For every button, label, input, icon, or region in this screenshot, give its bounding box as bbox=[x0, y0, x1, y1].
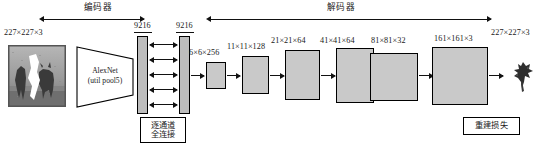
flow-arrow-1 bbox=[227, 75, 240, 76]
flow-arrow-3 bbox=[321, 75, 335, 76]
decoder-section-label: 解码器 bbox=[327, 3, 355, 12]
channelwise-fc-label-line2: 全连接 bbox=[151, 130, 176, 140]
flow-arrow-5 bbox=[419, 75, 433, 76]
fc-bar-right-label: 9216 bbox=[176, 22, 193, 30]
fc-connection-arrow-3 bbox=[150, 74, 177, 75]
figure-canvas: 编码器 解码器 227×227×3 bbox=[0, 0, 556, 151]
flow-arrow-2 bbox=[270, 75, 284, 76]
decoder-block-4-label: 81×81×32 bbox=[371, 37, 406, 45]
masked-grayscale-photo-icon bbox=[9, 46, 65, 106]
decoder-block-0-label: 6×6×256 bbox=[189, 49, 219, 57]
fc-bar-right-label-underline bbox=[176, 32, 194, 33]
fc-bar-left-label-underline bbox=[134, 32, 152, 33]
fc-connection-arrow-4 bbox=[150, 89, 177, 90]
input-image bbox=[8, 45, 66, 107]
decoder-block-3 bbox=[336, 48, 374, 103]
decoder-block-2 bbox=[285, 50, 320, 100]
decoder-block-3-label: 41×41×64 bbox=[320, 37, 355, 45]
reconstruction-loss-box: 重建损失 bbox=[463, 117, 520, 135]
fc-connection-arrow-1 bbox=[150, 44, 177, 45]
alexnet-label-line2: (util pool5) bbox=[73, 76, 137, 85]
decoder-span-line bbox=[211, 19, 491, 20]
reconstructed-patch-thumbnail-icon bbox=[506, 58, 540, 96]
decoder-block-0 bbox=[206, 62, 226, 89]
decoder-span-arrowhead-right bbox=[487, 16, 492, 22]
decoder-block-5 bbox=[432, 47, 488, 105]
encoder-span-arrowhead-left bbox=[39, 16, 44, 22]
fc-connection-arrow-5 bbox=[150, 104, 177, 105]
alexnet-label-line1: AlexNet bbox=[73, 66, 137, 75]
decoder-block-4 bbox=[370, 53, 418, 101]
decoder-block-5-label: 161×161×3 bbox=[434, 35, 473, 43]
output-image bbox=[506, 58, 540, 96]
fc-bar-left-label: 9216 bbox=[134, 22, 151, 30]
reconstruction-loss-label: 重建损失 bbox=[475, 121, 508, 131]
input-shape-label: 227×227×3 bbox=[4, 29, 43, 37]
encoder-span-line bbox=[44, 19, 144, 20]
decoder-block-1-label: 11×11×128 bbox=[227, 43, 265, 51]
fc-bar-left bbox=[137, 36, 148, 114]
fc-connection-arrow-2 bbox=[150, 59, 177, 60]
alexnet-backbone-block: AlexNet (util pool5) bbox=[73, 45, 137, 109]
decoder-block-1 bbox=[242, 56, 269, 94]
encoder-section-label: 编码器 bbox=[84, 3, 112, 12]
flow-arrow-6 bbox=[489, 75, 503, 76]
channelwise-fc-caption-box: 逐通道 全连接 bbox=[140, 117, 186, 143]
decoder-block-2-label: 21×21×64 bbox=[271, 37, 306, 45]
output-shape-label: 227×227×3 bbox=[491, 29, 530, 37]
decoder-span-arrowhead-left bbox=[206, 16, 211, 22]
flow-arrow-0 bbox=[191, 75, 204, 76]
